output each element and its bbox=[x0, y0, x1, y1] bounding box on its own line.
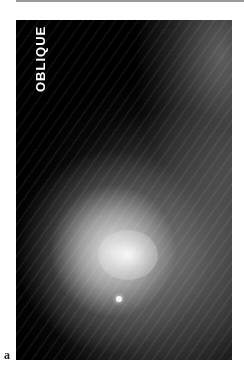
panel-label: a bbox=[4, 348, 10, 363]
mammogram-image: OBLIQUE bbox=[16, 20, 232, 360]
view-orientation-label: OBLIQUE bbox=[33, 22, 55, 92]
top-rule-divider bbox=[16, 0, 244, 2]
dense-region bbox=[98, 230, 158, 280]
calcification-spot bbox=[116, 296, 122, 302]
